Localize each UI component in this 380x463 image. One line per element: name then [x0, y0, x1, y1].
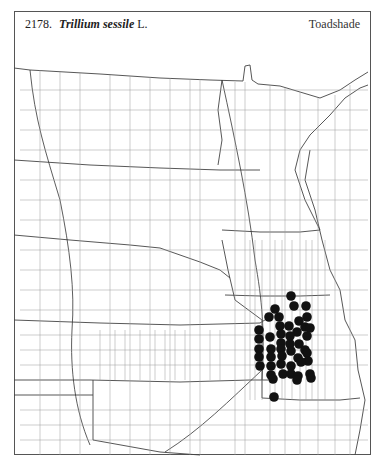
occurrence-dot	[286, 291, 296, 301]
state-boundaries	[14, 65, 368, 455]
occurrence-dot	[265, 332, 275, 342]
occurrence-dot	[254, 325, 264, 335]
occurrence-dot	[301, 301, 311, 311]
occurrence-dot	[302, 331, 312, 341]
occurrence-dot	[269, 392, 279, 402]
occurrence-dot	[286, 346, 296, 356]
occurrence-dot	[306, 373, 316, 383]
occurrence-dot	[296, 357, 306, 367]
occurrence-dot	[276, 329, 286, 339]
occurrence-dot	[264, 312, 274, 322]
occurrence-dot	[254, 334, 264, 344]
distribution-map	[0, 0, 380, 463]
occurrence-dot	[268, 374, 278, 384]
occurrence-dot	[276, 359, 286, 369]
occurrence-dot	[274, 312, 284, 322]
occurrence-dot	[254, 352, 264, 362]
occurrence-dot	[266, 352, 276, 362]
occurrence-dot	[255, 361, 265, 371]
occurrence-dot	[266, 361, 276, 371]
county-grid	[20, 70, 368, 455]
occurrence-dot	[289, 301, 299, 311]
occurrence-dot	[292, 375, 302, 385]
occurrence-dot	[284, 321, 294, 331]
